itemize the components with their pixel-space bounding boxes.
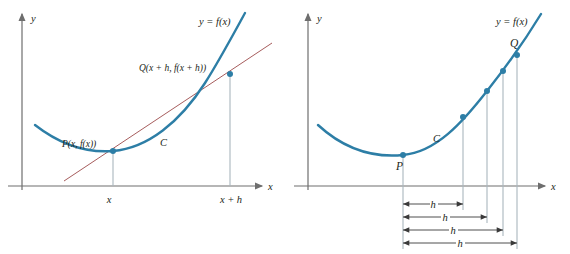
y-axis-label-right: y	[316, 13, 322, 24]
point-Q-left	[227, 71, 233, 77]
point-label-Q-left: Q(x + h, f(x + h))	[139, 63, 206, 74]
point-label-Q-right: Q	[510, 37, 519, 49]
curve-equation-label-left: y = f(x)	[198, 16, 231, 28]
point-Q1-right	[460, 114, 466, 120]
dimension-label-2: h	[442, 212, 447, 223]
tick-label-x-left: x	[106, 194, 112, 205]
curve-equation-label-right: y = f(x)	[495, 16, 528, 28]
point-Q-right	[514, 52, 520, 58]
point-label-P-left: P(x, f(x))	[61, 139, 96, 150]
curve-name-label-left: C	[160, 137, 168, 148]
dimension-bar-3: h	[403, 225, 503, 236]
secant-line-panel: y x P(x, f(x)) Q(x + h, f(x + h)) y = f(…	[0, 0, 285, 254]
right-panel-svg: y x P Q y = f(x) C	[285, 0, 570, 254]
point-label-P-right: P	[395, 160, 403, 172]
dimension-label-4: h	[457, 238, 462, 249]
point-Q2-right	[484, 88, 490, 94]
x-axis-label-left: x	[267, 181, 273, 192]
point-P-right	[400, 152, 406, 158]
tick-label-x-plus-h-left: x + h	[219, 194, 242, 205]
point-Q3-right	[500, 68, 506, 74]
limiting-process-panel: y x P Q y = f(x) C	[285, 0, 570, 254]
dimension-label-1: h	[430, 199, 435, 210]
figure-container: y x P(x, f(x)) Q(x + h, f(x + h)) y = f(…	[0, 0, 570, 254]
dimension-bar-4: h	[403, 238, 517, 249]
dimension-bar-1: h	[403, 199, 463, 210]
x-axis-label-right: x	[550, 181, 556, 192]
curve-right	[318, 14, 541, 156]
left-panel-svg: y x P(x, f(x)) Q(x + h, f(x + h)) y = f(…	[0, 0, 285, 254]
dimension-label-3: h	[450, 225, 455, 236]
y-axis-label-left: y	[30, 13, 36, 24]
point-P-left	[110, 148, 116, 154]
curve-name-label-right: C	[433, 133, 441, 144]
dimension-bar-2: h	[403, 212, 487, 223]
